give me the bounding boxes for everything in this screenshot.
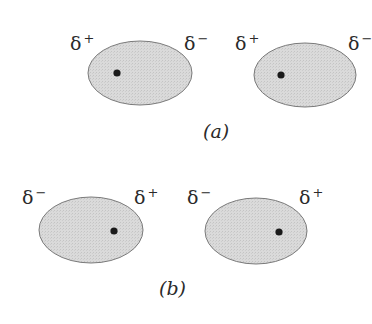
panel-a: δ+ δ− δ+ δ− (a) [70,31,372,142]
charge-label-right: δ+ [134,185,158,208]
molecule-a1: δ+ δ− [70,31,208,105]
charge-label-left: δ+ [235,31,259,54]
electron-cloud [88,41,192,105]
molecule-b1: δ− δ+ [22,185,158,263]
nucleus-dot [277,71,284,78]
nucleus-dot [275,228,282,235]
charge-label-right: δ+ [299,185,323,208]
panel-caption-b: (b) [159,277,186,299]
charge-label-right: δ− [184,31,208,54]
electron-cloud [205,198,307,264]
charge-label-left: δ+ [70,31,94,54]
charge-label-right: δ− [348,31,372,54]
panel-b: δ− δ+ δ− δ+ (b) [22,185,323,299]
electron-cloud [254,43,356,107]
dipole-diagram: δ+ δ− δ+ δ− (a) δ− δ+ δ− δ+ (b) [0,0,372,324]
nucleus-dot [110,227,117,234]
electron-cloud [39,197,143,263]
charge-label-left: δ− [22,185,46,208]
molecule-a2: δ+ δ− [235,31,372,107]
nucleus-dot [113,69,120,76]
charge-label-left: δ− [187,185,211,208]
molecule-b2: δ− δ+ [187,185,323,264]
panel-caption-a: (a) [203,120,229,142]
